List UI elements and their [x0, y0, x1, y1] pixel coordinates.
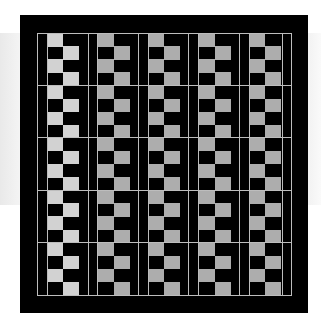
light-cell [98, 112, 114, 126]
light-cell [265, 72, 281, 86]
light-cell [199, 243, 215, 257]
light-cell [148, 112, 164, 126]
light-cell [148, 59, 164, 73]
light-cell [249, 59, 265, 73]
light-cell [114, 230, 130, 244]
light-cell [63, 46, 79, 60]
light-cell [114, 72, 130, 86]
left-background-band [0, 33, 20, 205]
light-cell [114, 282, 130, 296]
light-cell [215, 177, 231, 191]
light-cell [114, 177, 130, 191]
light-cell [249, 216, 265, 230]
light-cell [47, 164, 63, 178]
light-cell [47, 216, 63, 230]
light-cell [98, 85, 114, 99]
light-cell [98, 269, 114, 283]
light-cell [98, 190, 114, 204]
light-cell [98, 243, 114, 257]
light-cell [164, 125, 180, 139]
horizontal-grid-line [37, 33, 292, 34]
light-cell [148, 33, 164, 47]
vertical-grid-line [188, 33, 189, 295]
light-cell [164, 256, 180, 270]
vertical-grid-line [47, 33, 48, 295]
light-cell [148, 216, 164, 230]
light-cell [164, 99, 180, 113]
light-cell [199, 190, 215, 204]
light-cell [199, 269, 215, 283]
light-cell [114, 256, 130, 270]
light-cell [215, 256, 231, 270]
light-cell [63, 125, 79, 139]
light-cell [98, 138, 114, 152]
light-cell [98, 216, 114, 230]
light-cell [249, 269, 265, 283]
light-cell [164, 203, 180, 217]
light-cell [265, 256, 281, 270]
light-cell [215, 99, 231, 113]
light-cell [47, 269, 63, 283]
light-cell [265, 125, 281, 139]
vertical-grid-line [97, 33, 98, 295]
light-cell [199, 59, 215, 73]
light-cell [47, 190, 63, 204]
light-cell [249, 112, 265, 126]
vertical-grid-line [138, 33, 139, 295]
light-cell [199, 112, 215, 126]
right-background-band [308, 33, 321, 205]
light-cell [265, 151, 281, 165]
light-cell [114, 99, 130, 113]
light-cell [249, 85, 265, 99]
light-cell [199, 216, 215, 230]
light-cell [98, 164, 114, 178]
light-cell [164, 46, 180, 60]
light-cell [63, 256, 79, 270]
vertical-grid-line [239, 33, 240, 295]
light-cell [164, 72, 180, 86]
light-cell [215, 230, 231, 244]
light-cell [114, 125, 130, 139]
horizontal-grid-line [37, 295, 292, 296]
light-cell [215, 151, 231, 165]
light-cell [47, 243, 63, 257]
light-cell [215, 282, 231, 296]
light-cell [63, 282, 79, 296]
light-cell [98, 59, 114, 73]
horizontal-grid-line [37, 137, 292, 138]
light-cell [148, 190, 164, 204]
light-cell [148, 164, 164, 178]
light-cell [164, 230, 180, 244]
light-cell [148, 85, 164, 99]
light-cell [148, 138, 164, 152]
light-cell [265, 282, 281, 296]
light-cell [47, 59, 63, 73]
light-cell [114, 151, 130, 165]
checkerboard-pattern [20, 15, 308, 313]
light-cell [148, 243, 164, 257]
light-cell [114, 203, 130, 217]
vertical-grid-line [249, 33, 250, 295]
vertical-grid-line [88, 33, 89, 295]
light-cell [63, 99, 79, 113]
vertical-grid-line [148, 33, 149, 295]
light-cell [249, 164, 265, 178]
light-cell [47, 33, 63, 47]
light-cell [199, 138, 215, 152]
light-cell [249, 33, 265, 47]
horizontal-grid-line [37, 85, 292, 86]
light-cell [164, 151, 180, 165]
light-cell [215, 46, 231, 60]
light-cell [215, 203, 231, 217]
light-cell [249, 190, 265, 204]
light-cell [215, 125, 231, 139]
light-cell [199, 85, 215, 99]
light-cell [47, 138, 63, 152]
light-cell [265, 99, 281, 113]
horizontal-grid-line [37, 190, 292, 191]
light-cell [265, 177, 281, 191]
light-cell [63, 177, 79, 191]
light-cell [47, 85, 63, 99]
light-cell [215, 72, 231, 86]
vertical-grid-line [37, 33, 38, 295]
